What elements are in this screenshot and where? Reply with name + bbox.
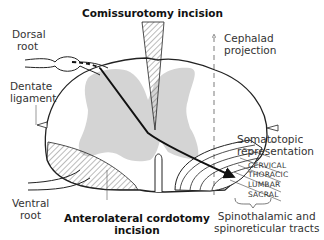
tracts-label: Spinothalamic and spinoreticular tracts <box>214 210 319 234</box>
level-cervical: CERVICAL <box>248 161 286 170</box>
level-thoracic: THORACIC <box>248 170 288 179</box>
tracts-brace <box>235 198 271 208</box>
dentate-ligament-label: Dentate ligament <box>10 80 56 104</box>
grey-matter <box>79 68 199 162</box>
dentate-ligament-left <box>37 122 47 128</box>
anterolateral-cordotomy-label: Anterolateral cordotomy incision <box>64 212 210 236</box>
level-sacral: SACRAL <box>248 190 279 199</box>
dorsal-root-label: Dorsal root <box>12 28 46 52</box>
cephalad-projection-label: Cephalad projection <box>224 32 276 56</box>
ventral-root-label: Ventral root <box>12 197 49 221</box>
somatotopic-label: Somatotopic representation <box>237 133 314 157</box>
level-lumbar: LUMBAR <box>248 180 280 189</box>
commissurotomy-label: Comissurotomy incision <box>82 7 223 19</box>
dorsal-root-dashes <box>72 62 100 68</box>
ventral-fissure <box>155 154 162 192</box>
dentate-ligament-right <box>267 125 278 131</box>
